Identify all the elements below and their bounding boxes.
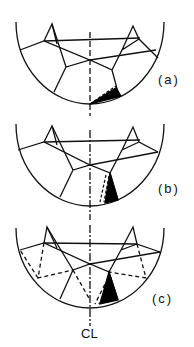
panel-b [16, 124, 164, 220]
panel-c [16, 225, 164, 326]
panel-label-a: (a) [158, 72, 180, 87]
centerline-label: CL [81, 326, 98, 341]
panel-label-b: (b) [158, 181, 180, 196]
panel-label-c: (c) [152, 291, 173, 306]
panel-a [16, 22, 164, 116]
